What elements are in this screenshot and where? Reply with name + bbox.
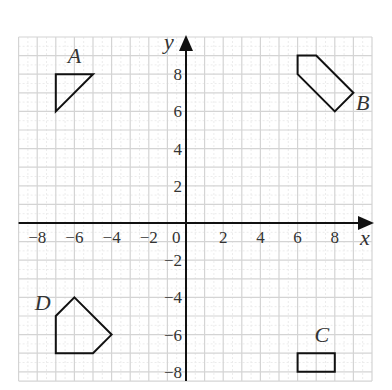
- shape-label: D: [34, 290, 51, 315]
- x-tick-label: −2: [140, 228, 158, 247]
- x-tick-label: −8: [28, 228, 46, 247]
- y-tick-label: 8: [174, 65, 183, 84]
- shape-label: C: [314, 322, 329, 347]
- y-tick-label: −6: [164, 326, 182, 345]
- origin-label: 0: [172, 228, 181, 247]
- shape-outline: [298, 56, 354, 112]
- shape-label: B: [356, 90, 369, 115]
- y-tick-label: 6: [174, 102, 183, 121]
- y-tick-label: −4: [164, 288, 183, 307]
- x-tick-label: 4: [256, 228, 265, 247]
- y-axis-label: y: [162, 29, 174, 54]
- x-axis-label: x: [359, 225, 370, 250]
- x-tick-label: −4: [103, 228, 122, 247]
- y-tick-label: −2: [164, 251, 182, 270]
- x-tick-label: −6: [65, 228, 83, 247]
- y-tick-label: 4: [174, 140, 183, 159]
- shape-label: A: [66, 43, 82, 68]
- x-tick-label: 2: [219, 228, 228, 247]
- coordinate-grid: x y 0 −8−6−4−22468−8−6−4−22468 ABCD: [0, 0, 392, 390]
- x-tick-label: 8: [331, 228, 340, 247]
- y-tick-label: 2: [174, 177, 183, 196]
- x-tick-label: 6: [293, 228, 302, 247]
- y-tick-label: −8: [164, 363, 182, 382]
